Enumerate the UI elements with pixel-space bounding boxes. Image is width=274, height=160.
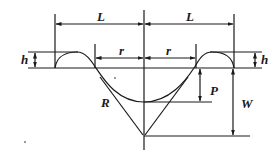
h-right-label: h [261,52,268,67]
L-left-label: L [96,9,105,24]
h-left-label: h [21,52,28,67]
P-label: P [210,83,219,98]
R-label: R [100,95,110,110]
W-label: W [241,96,254,111]
stray-dot [24,141,26,143]
r-left-label: r [119,43,125,58]
v-right-line [145,77,188,135]
cross-section-diagram: L L r r h h R P W [0,0,274,160]
r-right-label: r [166,43,172,58]
stray-dot [114,77,116,79]
L-right-label: L [185,9,194,24]
